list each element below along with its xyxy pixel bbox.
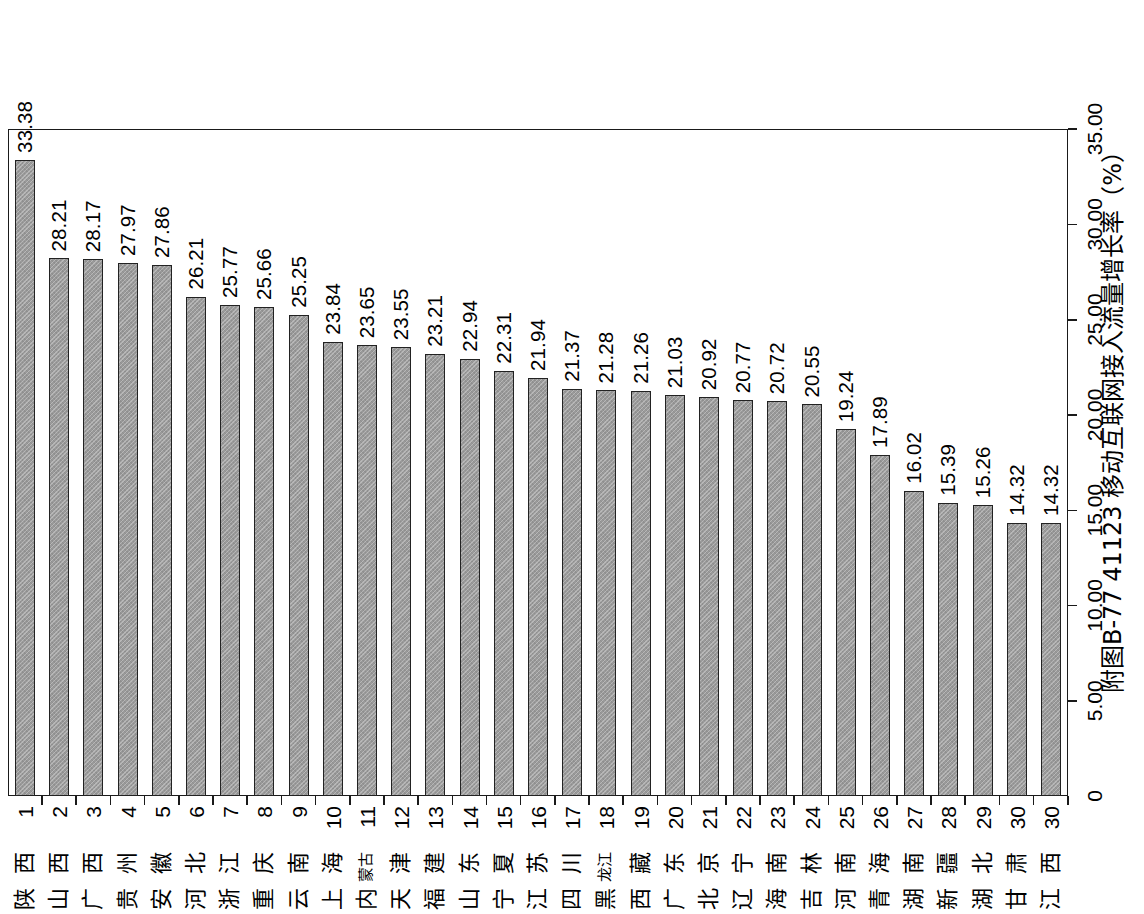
bar-value-label: 28.17 <box>83 200 103 252</box>
category-name-part: 夏 <box>493 852 514 882</box>
category-tick <box>862 796 864 805</box>
bar-row: 20.92 <box>699 129 719 796</box>
bar <box>665 395 685 796</box>
category-rank-label: 23 <box>767 806 788 840</box>
figure-caption: 附图B-77 41123 移动互联网接入流量增长率（%） <box>1098 0 1128 832</box>
category-name-part: 黑 <box>595 888 616 914</box>
bar-value-label: 15.39 <box>938 444 958 496</box>
bar <box>904 491 924 796</box>
bar-row: 21.94 <box>528 129 548 796</box>
bar <box>767 401 787 796</box>
category-rank-label: 1 <box>15 806 36 840</box>
category-name-part: 庆 <box>253 852 274 882</box>
category-tick <box>41 796 43 805</box>
bar-row: 20.77 <box>733 129 753 796</box>
category-name-part: 江 <box>219 852 240 882</box>
category-tick <box>349 796 351 805</box>
bar-value-label: 23.65 <box>357 287 377 339</box>
bar <box>1007 523 1027 796</box>
bar-value-label: 16.02 <box>904 432 924 484</box>
bar <box>289 315 309 796</box>
value-tick <box>1068 605 1077 607</box>
category-rank-label: 5 <box>152 806 173 840</box>
category-rank-label: 4 <box>118 806 139 840</box>
category-tick <box>691 796 693 805</box>
bar-value-label: 27.97 <box>118 204 138 256</box>
bar-value-label: 20.77 <box>733 341 753 393</box>
category-name-part: 建 <box>424 852 445 882</box>
category-tick <box>588 796 590 805</box>
bar-row: 21.37 <box>562 129 582 796</box>
bar <box>733 400 753 796</box>
bar-value-label: 22.31 <box>494 312 514 364</box>
category-tick <box>999 796 1001 805</box>
bar-row: 25.77 <box>220 129 240 796</box>
category-tick <box>486 796 488 805</box>
category-rank-label: 17 <box>562 806 583 840</box>
category-tick <box>246 796 248 805</box>
bar-row: 25.25 <box>289 129 309 796</box>
bar <box>118 263 138 796</box>
bar-row: 15.26 <box>973 129 993 796</box>
bar-value-label: 19.24 <box>836 371 856 423</box>
bar-value-label: 20.55 <box>802 346 822 398</box>
category-rank-label: 19 <box>631 806 652 840</box>
category-name-part: 福 <box>424 888 445 914</box>
category-rank-label: 14 <box>460 806 481 840</box>
bar <box>631 391 651 796</box>
bar-value-label: 21.37 <box>562 330 582 382</box>
category-name-part: 南 <box>766 852 787 882</box>
bar-row: 21.28 <box>596 129 616 796</box>
bar-value-label: 15.26 <box>973 446 993 498</box>
bar-value-label: 21.94 <box>528 319 548 371</box>
category-name-part: 东 <box>459 852 480 882</box>
category-name-part: 州 <box>117 852 138 882</box>
category-name-part: 西 <box>82 852 103 882</box>
category-name-part: 贵 <box>117 888 138 914</box>
category-tick <box>315 796 317 805</box>
category-name-part: 肃 <box>1006 852 1027 882</box>
category-name-part: 海 <box>869 852 890 882</box>
category-rank-label: 24 <box>802 806 823 840</box>
category-name-part: 蒙古 <box>356 852 377 882</box>
category-rank-label: 11 <box>357 806 378 840</box>
category-name-part: 江 <box>1040 888 1061 914</box>
category-rank-label: 8 <box>254 806 275 840</box>
category-name-part: 四 <box>561 888 582 914</box>
category-tick <box>383 796 385 805</box>
bar <box>49 258 69 796</box>
bar <box>596 390 616 796</box>
bar-row: 19.24 <box>836 129 856 796</box>
category-rank-label: 28 <box>938 806 959 840</box>
bar-row: 20.72 <box>767 129 787 796</box>
category-tick <box>1067 796 1069 805</box>
category-name-part: 藏 <box>630 852 651 882</box>
category-name-part: 宁 <box>493 888 514 914</box>
category-tick <box>212 796 214 805</box>
category-name-part: 海 <box>766 888 787 914</box>
bar-row: 21.26 <box>631 129 651 796</box>
category-name-part: 南 <box>288 852 309 882</box>
category-name-part: 京 <box>698 852 719 882</box>
bar <box>1041 523 1061 796</box>
bar <box>494 371 514 796</box>
category-name-part: 山 <box>48 888 69 914</box>
category-tick <box>144 796 146 805</box>
bar-row: 27.86 <box>152 129 172 796</box>
category-name-part: 浙 <box>219 888 240 914</box>
bar-value-label: 26.21 <box>186 238 206 290</box>
category-name-part: 南 <box>903 852 924 882</box>
bar-row: 14.32 <box>1007 129 1027 796</box>
category-name-part: 西 <box>48 852 69 882</box>
category-name-part: 河 <box>835 888 856 914</box>
bar-row: 23.21 <box>425 129 445 796</box>
bar <box>562 389 582 796</box>
bar <box>152 265 172 796</box>
bar-row: 33.38 <box>15 129 35 796</box>
category-name-part: 西 <box>1040 852 1061 882</box>
bar-row: 28.21 <box>49 129 69 796</box>
category-tick <box>657 796 659 805</box>
bar-row: 14.32 <box>1041 129 1061 796</box>
